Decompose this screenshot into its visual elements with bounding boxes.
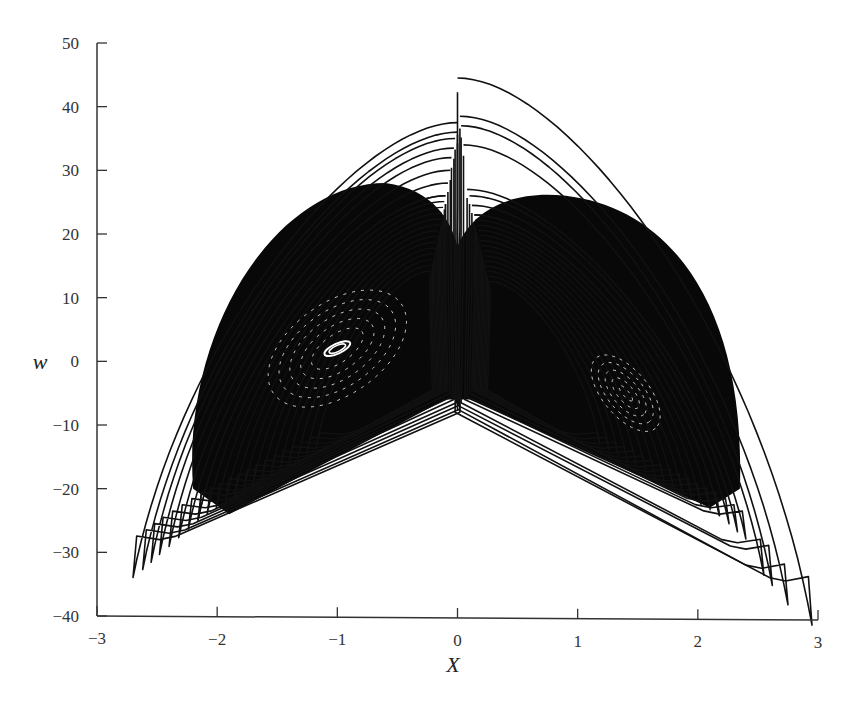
y-tick-label: 10 <box>62 289 79 308</box>
x-tick-label: 0 <box>453 631 462 650</box>
x-tick-label: −1 <box>328 630 346 649</box>
x-tick-label: 1 <box>573 632 582 651</box>
y-axis-title: w <box>33 349 48 374</box>
y-tick-label: 20 <box>62 225 79 244</box>
x-tick-label: 2 <box>694 632 703 651</box>
y-tick-label: −40 <box>52 607 79 626</box>
plot-area <box>133 78 812 625</box>
y-tick-label: −30 <box>52 543 79 562</box>
y-ticks: −40−30−20−1001020304050 <box>52 34 107 626</box>
attractor-phase-plot: −40−30−20−1001020304050 −3−2−10123 X w <box>0 0 857 713</box>
x-ticks: −3−2−10123 <box>88 606 822 652</box>
y-tick-label: 50 <box>62 34 79 53</box>
x-axis-title: X <box>445 652 461 677</box>
x-tick-label: −3 <box>88 629 106 648</box>
x-tick-label: −2 <box>208 630 226 649</box>
y-tick-label: 30 <box>62 161 79 180</box>
y-tick-label: −10 <box>52 416 79 435</box>
x-tick-label: 3 <box>814 633 823 652</box>
y-tick-label: 0 <box>71 352 80 371</box>
y-tick-label: −20 <box>52 480 79 499</box>
y-tick-label: 40 <box>62 98 79 117</box>
